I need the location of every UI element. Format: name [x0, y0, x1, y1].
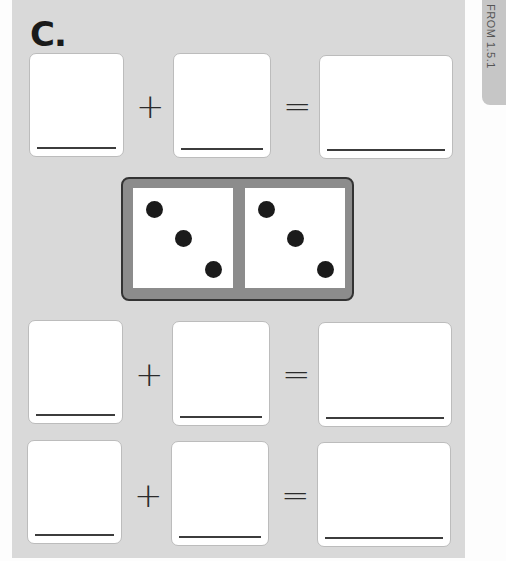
equals-sign: =: [281, 478, 310, 512]
section-label: C.: [30, 14, 66, 54]
answer-line: [181, 148, 263, 150]
plus-sign: +: [136, 89, 165, 123]
answer-line: [35, 534, 114, 536]
answer-box-addend1-row1[interactable]: [29, 53, 124, 157]
pip: [146, 201, 163, 218]
answer-line: [180, 416, 262, 418]
answer-line: [326, 417, 444, 419]
answer-box-addend1-row3[interactable]: [27, 440, 122, 544]
pip: [175, 230, 192, 247]
answer-line: [36, 414, 115, 416]
domino: [121, 177, 354, 301]
side-tab-text: FROM 1.5.1: [485, 4, 497, 69]
answer-line: [37, 147, 116, 149]
equals-sign: =: [283, 89, 312, 123]
equals-sign: =: [282, 357, 311, 391]
answer-box-sum-row2[interactable]: [318, 322, 452, 427]
pip: [317, 261, 334, 278]
pip: [258, 201, 275, 218]
plus-sign: +: [135, 357, 164, 391]
answer-line: [325, 537, 443, 539]
answer-box-sum-row3[interactable]: [317, 442, 451, 547]
answer-box-addend2-row3[interactable]: [171, 441, 269, 546]
answer-line: [327, 149, 445, 151]
pip: [205, 261, 222, 278]
domino-left-half: [133, 188, 233, 288]
answer-box-addend1-row2[interactable]: [28, 320, 123, 424]
answer-box-sum-row1[interactable]: [319, 55, 453, 159]
plus-sign: +: [134, 478, 163, 512]
domino-right-half: [245, 188, 345, 288]
answer-line: [179, 536, 261, 538]
side-tab: FROM 1.5.1: [482, 0, 506, 105]
answer-box-addend2-row1[interactable]: [173, 53, 271, 158]
answer-box-addend2-row2[interactable]: [172, 321, 270, 426]
pip: [287, 230, 304, 247]
